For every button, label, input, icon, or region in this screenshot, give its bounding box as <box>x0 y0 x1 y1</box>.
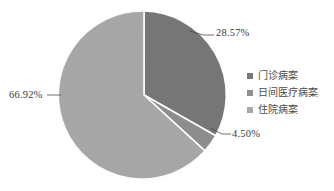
pie-chart-figure: 28.57% 4.50% 66.92% 门诊病案 日间医疗病案 住院病案 <box>0 0 334 191</box>
chart-legend: 门诊病案 日间医疗病案 住院病案 <box>247 68 333 119</box>
legend-item-daycare: 日间医疗病案 <box>247 85 333 101</box>
pie-label-inpatient-percent: 66.92% <box>9 89 43 100</box>
legend-label-daycare: 日间医疗病案 <box>258 87 318 99</box>
legend-item-inpatient: 住院病案 <box>247 102 333 118</box>
legend-label-inpatient: 住院病案 <box>258 104 298 116</box>
legend-swatch-icon-daycare <box>247 90 253 96</box>
legend-label-outpatient: 门诊病案 <box>258 70 298 82</box>
pie-label-daycare-percent: 4.50% <box>232 128 260 139</box>
legend-swatch-icon-outpatient <box>247 73 253 79</box>
legend-item-outpatient: 门诊病案 <box>247 68 333 84</box>
pie-label-outpatient-percent: 28.57% <box>216 27 250 38</box>
legend-swatch-icon-inpatient <box>247 107 253 113</box>
